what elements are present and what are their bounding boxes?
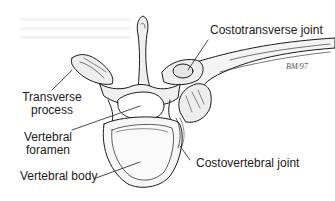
label-transverse-process: Transverse process	[22, 91, 82, 117]
label-vertebral-foramen: Vertebral foramen	[20, 131, 76, 157]
label-costovertebral-joint: Costovertebral joint	[196, 157, 299, 170]
leader-costovertebral	[180, 146, 190, 160]
artist-signature: BM/97	[286, 62, 308, 71]
label-foramen-line2: foramen	[20, 144, 76, 157]
rib	[194, 38, 335, 104]
spinous-process	[137, 16, 150, 88]
transverse-process-left	[71, 55, 113, 85]
leader-transverse-process	[52, 70, 72, 90]
label-costotransverse-joint: Costotransverse joint	[210, 24, 323, 37]
label-vertebral-body: Vertebral body	[20, 170, 97, 183]
rib-head	[179, 84, 211, 123]
vertebral-foramen	[118, 92, 164, 120]
label-transverse-line2: process	[22, 104, 82, 117]
